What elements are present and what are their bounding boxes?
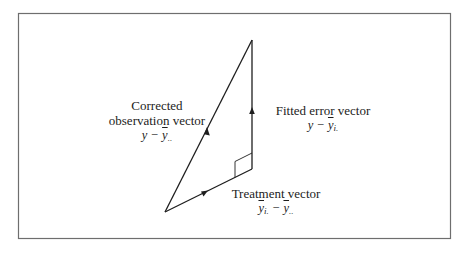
corrected-observation-label: Corrected observation vector y − y.. xyxy=(90,98,224,146)
treatment-title: Treatment vector xyxy=(224,186,328,201)
treatment-label: Treatment vector yi. − y.. xyxy=(224,186,328,219)
formula-part: y − xyxy=(308,118,328,132)
fitted-error-formula: y − yi. xyxy=(266,118,380,136)
fitted-error-title: Fitted error vector xyxy=(266,103,380,118)
corrected-observation-title-line2: observation vector xyxy=(90,113,224,128)
formula-minus: − xyxy=(269,201,284,215)
corrected-observation-formula: y − y.. xyxy=(90,128,224,146)
formula-subscript-dotdot: .. xyxy=(289,206,294,216)
treatment-formula: yi. − y.. xyxy=(224,201,328,219)
formula-part: y − xyxy=(142,128,162,142)
treatment-arrow-icon xyxy=(201,191,208,197)
fitted-error-label: Fitted error vector y − yi. xyxy=(266,103,380,136)
fitted-error-arrow-icon xyxy=(249,107,255,114)
formula-subscript: i. xyxy=(334,123,339,133)
corrected-observation-title-line1: Corrected xyxy=(90,98,224,113)
formula-subscript: .. xyxy=(168,133,173,143)
